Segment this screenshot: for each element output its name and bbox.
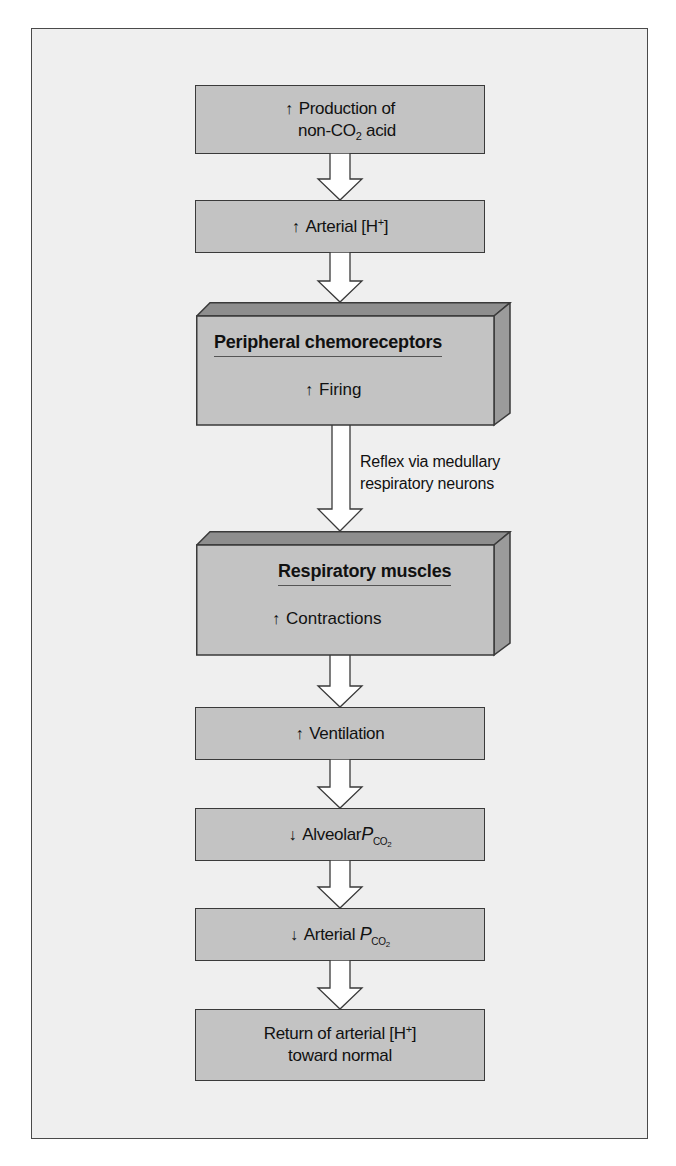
down-arrow-icon [316, 759, 364, 809]
subscript: CO2 [371, 936, 390, 947]
down-arrow-icon [316, 425, 364, 532]
up-arrow-icon: ↑ [296, 723, 304, 745]
node-text: toward normal [288, 1045, 392, 1067]
3d-box-shape [196, 531, 512, 658]
node-label: ↑Firing [305, 380, 362, 400]
node-text: acid [362, 121, 396, 140]
down-arrow-icon [316, 153, 364, 201]
node-text: Ventilation [309, 724, 384, 743]
node-text: Production of [299, 99, 395, 118]
node-arterial-pco2: ↓Arterial PCO2 [195, 908, 485, 961]
node-text: ] [412, 1024, 416, 1043]
down-arrow-icon [316, 960, 364, 1010]
node-text: Firing [319, 380, 362, 399]
edge-label-line: respiratory neurons [360, 473, 500, 495]
node-text: Return of arterial [H [264, 1024, 406, 1043]
edge-label-reflex: Reflex via medullary respiratory neurons [360, 451, 500, 495]
node-return-toward-normal: Return of arterial [H+] toward normal [195, 1009, 485, 1081]
node-peripheral-chemoreceptors: Peripheral chemoreceptors ↑Firing [196, 302, 510, 426]
up-arrow-icon: ↑ [305, 381, 313, 399]
down-arrow-icon [316, 860, 364, 909]
up-arrow-icon: ↑ [272, 610, 280, 628]
node-production-non-co2-acid: ↑Production of non-CO2 acid [195, 85, 485, 154]
down-arrow-icon: ↓ [288, 824, 296, 846]
node-respiratory-muscles: Respiratory muscles ↑Contractions [196, 531, 510, 656]
node-text: Alveolar [302, 825, 361, 844]
node-ventilation: ↑Ventilation [195, 707, 485, 760]
node-label: ↑Contractions [272, 609, 381, 629]
node-title: Respiratory muscles [278, 561, 451, 586]
up-arrow-icon: ↑ [292, 216, 300, 238]
node-text: ] [384, 217, 388, 236]
node-arterial-h-plus: ↑Arterial [H+] [195, 200, 485, 253]
node-text: Arterial [H [305, 217, 377, 236]
node-alveolar-pco2: ↓AlveolarPCO2 [195, 808, 485, 861]
3d-box-shape [196, 302, 512, 428]
pressure-symbol: P [361, 824, 373, 844]
down-arrow-icon [316, 655, 364, 708]
edge-label-line: Reflex via medullary [360, 451, 500, 473]
subscript: CO2 [373, 836, 392, 847]
node-text: non-CO [298, 121, 356, 140]
node-text: Arterial [304, 925, 360, 944]
down-arrow-icon: ↓ [290, 924, 298, 946]
down-arrow-icon [316, 252, 364, 303]
up-arrow-icon: ↑ [285, 98, 293, 120]
node-text: Contractions [286, 609, 381, 628]
node-title: Peripheral chemoreceptors [214, 332, 442, 357]
pressure-symbol: P [360, 924, 372, 944]
